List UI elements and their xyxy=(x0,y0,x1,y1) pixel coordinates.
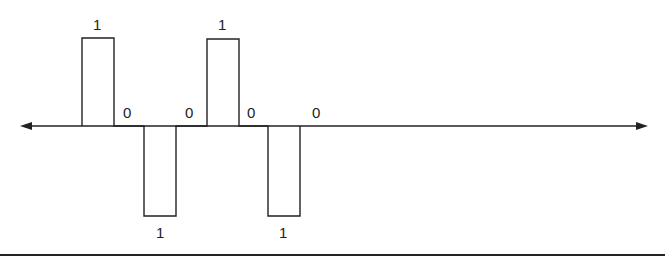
zero-4-label: 0 xyxy=(312,104,320,121)
left-arrow-icon xyxy=(20,122,32,130)
pulse-2-label: 1 xyxy=(156,224,164,241)
pulse-3-label: 1 xyxy=(218,16,226,33)
zero-2-label: 0 xyxy=(185,104,193,121)
zero-1-label: 0 xyxy=(123,104,131,121)
zero-3-label: 0 xyxy=(247,104,255,121)
waveform-diagram: 1 0 1 0 1 0 1 0 xyxy=(0,0,665,268)
right-arrow-icon xyxy=(636,122,648,130)
signal-waveform xyxy=(82,38,300,216)
pulse-4-label: 1 xyxy=(279,224,287,241)
pulse-1-label: 1 xyxy=(93,16,101,33)
